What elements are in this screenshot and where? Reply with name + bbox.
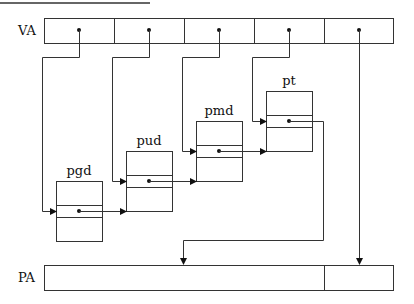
pa-register: PA xyxy=(18,266,394,291)
table-pud: pud xyxy=(127,133,173,212)
table-pointer-arrows xyxy=(79,122,324,265)
pmd-label: pmd xyxy=(205,103,234,118)
va-index-arrows xyxy=(43,30,360,264)
va-register: VA xyxy=(17,19,394,44)
page-table-diagram: VA pgd pud pmd pt xyxy=(0,0,414,304)
table-pgd: pgd xyxy=(57,163,103,242)
pt-label: pt xyxy=(282,73,296,88)
pud-label: pud xyxy=(136,133,161,148)
table-pt: pt xyxy=(267,73,313,152)
pgd-label: pgd xyxy=(67,163,92,178)
pa-label: PA xyxy=(18,270,36,285)
va-label: VA xyxy=(17,23,37,38)
table-pmd: pmd xyxy=(197,103,243,182)
